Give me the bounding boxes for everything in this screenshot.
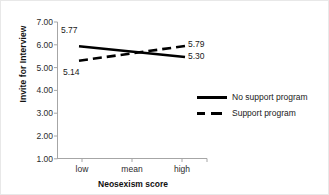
legend-dashed-line-icon	[197, 108, 227, 118]
legend-item-support-program: Support program	[197, 105, 327, 121]
x-axis-ticks	[82, 159, 207, 163]
legend-label: Support program	[232, 108, 296, 118]
x-tick-label-low: low	[76, 164, 89, 174]
chart-figure: 7.00 6.00 5.00 4.00 3.00 2.00 1.00 Invit…	[0, 0, 329, 195]
x-axis-title: Neosexism score	[58, 179, 208, 189]
y-axis-ticks	[54, 22, 58, 159]
chart-legend: No support program Support program	[197, 89, 327, 121]
legend-solid-line-icon	[197, 92, 227, 102]
x-tick-label-high: high	[174, 164, 190, 174]
data-label-bottom-left: 5.14	[63, 67, 80, 77]
legend-label: No support program	[232, 92, 308, 102]
data-label-top-left: 5.77	[61, 25, 78, 35]
x-tick-label-mean: mean	[121, 164, 142, 174]
data-label-bottom-right: 5.30	[188, 51, 205, 61]
data-label-top-right: 5.79	[188, 39, 205, 49]
legend-item-no-support-program: No support program	[197, 89, 327, 105]
